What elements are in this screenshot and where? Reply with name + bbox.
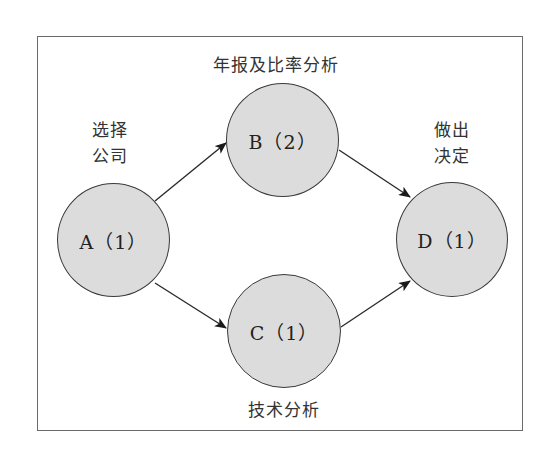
node-c-label: C（1） xyxy=(250,318,319,345)
edge-c-d xyxy=(341,281,410,327)
node-b-label: B（2） xyxy=(248,127,316,154)
edge-b-d xyxy=(339,150,410,197)
annotation-a: 选择 公司 xyxy=(80,117,140,169)
annotation-b-text: 年报及比率分析 xyxy=(196,52,356,78)
node-d: D（1） xyxy=(396,182,508,297)
node-d-label: D（1） xyxy=(417,226,486,253)
edge-a-c xyxy=(155,283,226,328)
annotation-c-text: 技术分析 xyxy=(224,397,344,423)
node-b: B（2） xyxy=(226,83,339,197)
edge-a-b xyxy=(155,143,226,201)
node-c: C（1） xyxy=(227,274,341,388)
node-a: A（1） xyxy=(57,183,170,297)
annotation-d: 做出 决定 xyxy=(422,117,482,169)
node-a-label: A（1） xyxy=(80,227,148,254)
annotation-d-line1: 做出 xyxy=(422,117,482,143)
annotation-b: 年报及比率分析 xyxy=(196,52,356,78)
annotation-a-line1: 选择 xyxy=(80,117,140,143)
annotation-a-line2: 公司 xyxy=(80,143,140,169)
annotation-c: 技术分析 xyxy=(224,397,344,423)
annotation-d-line2: 决定 xyxy=(422,143,482,169)
